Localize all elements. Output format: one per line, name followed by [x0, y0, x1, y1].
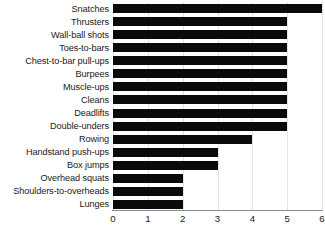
bar — [113, 43, 287, 52]
category-label: Chest-to-bar pull-ups — [0, 57, 109, 66]
bar — [113, 95, 287, 104]
bar — [113, 174, 183, 183]
bar — [113, 69, 287, 78]
bar — [113, 187, 183, 196]
x-tick-label: 1 — [138, 213, 158, 225]
category-label: Deadlifts — [0, 109, 109, 118]
bar — [113, 200, 183, 209]
category-label: Handstand push-ups — [0, 148, 109, 157]
x-tick-label: 3 — [208, 213, 228, 225]
bar — [113, 148, 218, 157]
x-axis-tick-labels: 0123456 — [0, 213, 325, 229]
category-label: Lunges — [0, 200, 109, 209]
bar — [113, 109, 287, 118]
bar-chart: SnatchesThrustersWall-ball shotsToes-to-… — [0, 0, 325, 237]
category-label: Rowing — [0, 135, 109, 144]
bar — [113, 161, 218, 170]
category-label: Burpees — [0, 70, 109, 79]
x-tick-label: 5 — [277, 213, 297, 225]
x-tick-label: 2 — [173, 213, 193, 225]
category-label: Muscle-ups — [0, 83, 109, 92]
bar — [113, 135, 252, 144]
category-label: Overhead squats — [0, 174, 109, 183]
category-label: Thrusters — [0, 18, 109, 27]
gridline — [322, 2, 323, 211]
x-tick-label: 4 — [242, 213, 262, 225]
bar — [113, 122, 287, 131]
category-label: Snatches — [0, 5, 109, 14]
bar — [113, 17, 287, 26]
category-axis-labels: SnatchesThrustersWall-ball shotsToes-to-… — [0, 2, 109, 211]
category-label: Cleans — [0, 96, 109, 105]
category-label: Box jumps — [0, 161, 109, 170]
bar — [113, 4, 322, 13]
plot-area — [113, 2, 322, 211]
category-label: Shoulders-to-overheads — [0, 187, 109, 196]
bar — [113, 30, 287, 39]
category-label: Double-unders — [0, 122, 109, 131]
bar — [113, 82, 287, 91]
category-label: Wall-ball shots — [0, 31, 109, 40]
bar-series — [113, 2, 322, 211]
category-label: Toes-to-bars — [0, 44, 109, 53]
x-tick-label: 0 — [103, 213, 123, 225]
x-axis-line — [112, 210, 323, 211]
bar — [113, 56, 287, 65]
x-tick-label: 6 — [312, 213, 325, 225]
